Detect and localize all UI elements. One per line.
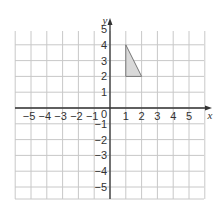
y-tick-label: −2: [94, 134, 107, 146]
tick-labels: −5−4−3−2−11234554321−1−2−3−4−50xy: [23, 14, 213, 193]
x-tick-label: 4: [170, 110, 176, 122]
x-tick-label: −5: [23, 110, 36, 122]
x-tick-label: 1: [123, 110, 129, 122]
y-axis-arrow-icon: [108, 18, 113, 25]
y-tick-label: −5: [94, 181, 107, 193]
x-tick-label: 5: [186, 110, 192, 122]
y-tick-label: 3: [101, 55, 107, 67]
y-tick-label: 2: [101, 70, 107, 82]
y-tick-label: 4: [101, 39, 107, 51]
coordinate-grid: −5−4−3−2−11234554321−1−2−3−4−50xy: [0, 0, 214, 215]
x-axis-label: x: [207, 109, 213, 121]
x-tick-label: −4: [39, 110, 52, 122]
x-tick-label: −3: [54, 110, 67, 122]
origin-label: 0: [101, 108, 107, 120]
x-tick-label: 3: [154, 110, 160, 122]
x-tick-label: −2: [70, 110, 83, 122]
y-tick-label: 1: [101, 86, 107, 98]
x-tick-label: 2: [139, 110, 145, 122]
y-tick-label: −3: [94, 149, 107, 161]
y-tick-label: −4: [94, 165, 107, 177]
y-axis-label: y: [102, 14, 108, 26]
